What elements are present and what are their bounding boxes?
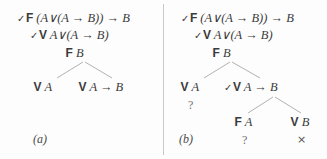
formula-text: A	[189, 80, 200, 94]
formula-text: (A∨(A → B)) → B	[197, 11, 294, 25]
formula-text: A∨(A → B)	[47, 28, 109, 42]
tableau-node-a-2: ✓V A∨(A → B)	[30, 29, 109, 42]
truth-value-marker: F	[235, 115, 242, 129]
formula-text: A∨(A → B)	[211, 28, 273, 42]
checkmark-icon: ✓	[30, 30, 38, 41]
tableau-panel-a: ✓F (A∨(A → B)) → B ✓V A∨(A → B) F B V A …	[0, 0, 163, 159]
open-branch-mark-fa: ?	[242, 134, 247, 146]
truth-value-marker: V	[291, 115, 299, 129]
formula-text: B	[220, 46, 231, 60]
tableau-node-b-leaf-vb: V B	[290, 116, 309, 129]
checkmark-icon: ✓	[17, 13, 25, 24]
truth-value-marker: F	[213, 46, 220, 60]
branch-line-sub-left	[248, 97, 273, 113]
formula-text: A	[42, 80, 53, 94]
truth-value-marker: V	[181, 80, 189, 94]
formula-text: B	[299, 115, 310, 129]
formula-text: A	[242, 115, 253, 129]
truth-value-marker: V	[34, 80, 42, 94]
tableau-node-b-2: ✓V A∨(A → B)	[194, 29, 273, 42]
branch-line-sub-right	[275, 97, 301, 113]
tableau-node-a-3: F B	[65, 47, 84, 60]
checkmark-icon: ✓	[224, 82, 232, 93]
formula-text: A → B	[87, 80, 124, 94]
panel-caption-b: (b)	[179, 133, 193, 145]
formula-text: (A∨(A → B)) → B	[33, 11, 130, 25]
truth-value-marker: V	[233, 80, 241, 94]
tableau-node-a-leaf-left: V A	[33, 81, 52, 94]
tableau-node-b-leaf-fa: F A	[234, 116, 252, 129]
tableau-panel-b: ✓F (A∨(A → B)) → B ✓V A∨(A → B) F B V A …	[164, 0, 327, 159]
truth-value-marker: V	[203, 28, 211, 42]
tableau-node-b-mid-right: ✓V A → B	[224, 81, 278, 94]
checkmark-icon: ✓	[181, 13, 189, 24]
branch-line-left	[204, 62, 230, 78]
formula-text: A → B	[241, 80, 278, 94]
truth-value-marker: F	[66, 46, 73, 60]
tableau-node-b-leaf-left: V A	[180, 81, 199, 94]
tableau-node-a-leaf-right: V A → B	[78, 81, 123, 94]
checkmark-icon: ✓	[194, 30, 202, 41]
formula-text: B	[73, 46, 84, 60]
closed-branch-mark-vb: ×	[297, 134, 306, 145]
truth-value-marker: V	[39, 28, 47, 42]
branch-line-left	[57, 62, 83, 78]
tableau-node-a-root: ✓F (A∨(A → B)) → B	[17, 12, 130, 25]
branch-line-right	[85, 62, 112, 78]
tableau-figure: ✓F (A∨(A → B)) → B ✓V A∨(A → B) F B V A …	[0, 0, 327, 159]
truth-value-marker: V	[79, 80, 87, 94]
branch-line-right	[232, 62, 260, 78]
panel-caption-a: (a)	[33, 133, 47, 145]
open-branch-mark-left: ?	[188, 99, 193, 111]
tableau-node-b-root: ✓F (A∨(A → B)) → B	[181, 12, 294, 25]
tableau-node-b-3: F B	[212, 47, 231, 60]
